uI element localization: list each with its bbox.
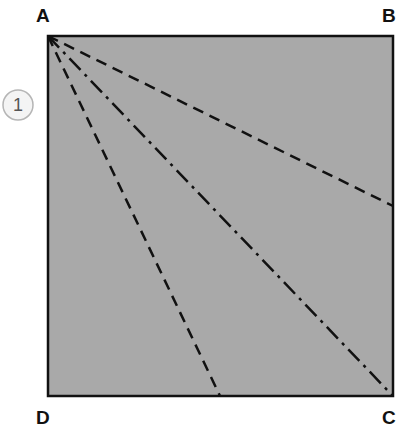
corner-label-b: B [382,5,396,26]
step-indicator: 1 [3,90,33,120]
corner-label-c: C [382,407,396,428]
origami-fold-diagram: 1 A B C D [0,0,401,430]
step-number: 1 [13,95,23,115]
corner-label-a: A [36,5,50,26]
corner-label-d: D [36,407,50,428]
